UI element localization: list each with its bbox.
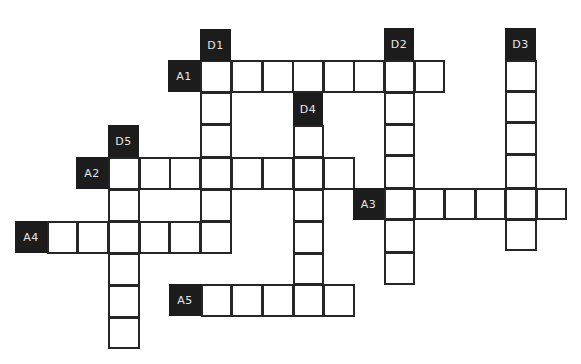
crossword-cell[interactable]	[231, 60, 263, 93]
crossword-cell[interactable]	[139, 221, 170, 254]
crossword-cell[interactable]	[293, 284, 324, 317]
crossword-cell[interactable]	[293, 189, 324, 222]
crossword-cell[interactable]	[293, 125, 324, 158]
clue-label-a2: A2	[76, 157, 108, 189]
clue-label-d5: D5	[108, 125, 139, 157]
crossword-cell[interactable]	[323, 157, 355, 190]
clue-label-a1: A1	[168, 60, 200, 92]
crossword-cell[interactable]	[200, 157, 232, 190]
crossword-cell[interactable]	[200, 221, 232, 254]
crossword-cell[interactable]	[200, 124, 232, 158]
crossword-cell[interactable]	[384, 155, 415, 189]
crossword-cell[interactable]	[201, 284, 232, 317]
crossword-cell[interactable]	[414, 60, 445, 93]
crossword-cell[interactable]	[323, 284, 355, 317]
crossword-cell[interactable]	[47, 221, 78, 254]
clue-label-d3: D3	[505, 28, 536, 60]
crossword-cell[interactable]	[384, 124, 415, 156]
crossword-cell[interactable]	[293, 157, 324, 190]
clue-label-a3: A3	[353, 188, 384, 220]
crossword-cell[interactable]	[444, 188, 476, 220]
crossword-cell[interactable]	[262, 284, 294, 317]
crossword-cell[interactable]	[231, 284, 263, 317]
crossword-cell[interactable]	[384, 60, 415, 93]
crossword-cell[interactable]	[323, 60, 355, 93]
clue-label-d2: D2	[384, 28, 414, 60]
crossword-cell[interactable]	[231, 157, 263, 190]
crossword-cell[interactable]	[384, 252, 415, 285]
crossword-cell[interactable]	[384, 188, 415, 220]
crossword-cell[interactable]	[139, 157, 171, 190]
crossword-cell[interactable]	[505, 154, 537, 189]
crossword-cell[interactable]	[505, 122, 537, 155]
crossword-cell[interactable]	[262, 157, 294, 190]
crossword-cell[interactable]	[200, 189, 232, 222]
crossword-cell[interactable]	[414, 188, 445, 220]
crossword-cell[interactable]	[108, 157, 140, 190]
crossword-cell[interactable]	[505, 219, 537, 251]
crossword-cell[interactable]	[505, 188, 537, 220]
crossword-cell[interactable]	[108, 253, 140, 286]
crossword-cell[interactable]	[200, 60, 232, 93]
crossword-cell[interactable]	[169, 157, 201, 190]
crossword-cell[interactable]	[77, 221, 109, 254]
crossword-cell[interactable]	[108, 285, 140, 318]
crossword-cell[interactable]	[505, 91, 537, 123]
crossword-cell[interactable]	[108, 317, 140, 349]
crossword-cell[interactable]	[293, 221, 324, 254]
crossword-cell[interactable]	[475, 188, 506, 220]
clue-label-d4: D4	[293, 93, 323, 125]
crossword-cell[interactable]	[200, 92, 232, 125]
crossword-cell[interactable]	[293, 253, 324, 285]
crossword-cell[interactable]	[108, 221, 140, 254]
crossword-grid: D1D2D3A1D4D5A2A3A4A5	[0, 0, 581, 364]
crossword-cell[interactable]	[536, 188, 567, 220]
clue-label-d1: D1	[200, 29, 231, 61]
crossword-cell[interactable]	[384, 219, 415, 253]
clue-label-a4: A4	[15, 221, 47, 253]
crossword-cell[interactable]	[262, 60, 294, 93]
crossword-cell[interactable]	[108, 189, 140, 222]
crossword-cell[interactable]	[384, 92, 415, 125]
crossword-cell[interactable]	[505, 60, 537, 92]
clue-label-a5: A5	[169, 284, 201, 316]
crossword-cell[interactable]	[353, 60, 385, 93]
crossword-cell[interactable]	[169, 221, 201, 254]
crossword-cell[interactable]	[292, 60, 324, 93]
